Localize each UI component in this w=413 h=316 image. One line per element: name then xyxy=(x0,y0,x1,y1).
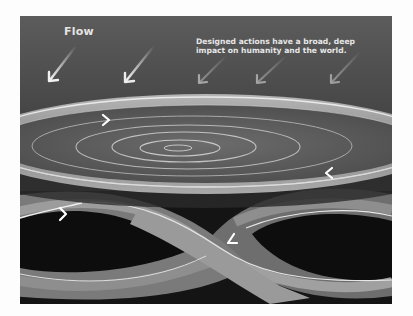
caption-line-1: Designed actions have a broad, deep xyxy=(196,37,392,46)
caption-text: Designed actions have a broad, deep impa… xyxy=(196,37,392,55)
ripple-disc xyxy=(20,94,392,208)
illustration-svg xyxy=(20,16,392,304)
flow-label: Flow xyxy=(64,25,94,38)
page-canvas: Flow Designed actions have a broad, deep… xyxy=(0,0,413,316)
flow-illustration: Flow Designed actions have a broad, deep… xyxy=(20,16,392,304)
caption-line-2: impact on humanity and the world. xyxy=(196,46,392,55)
